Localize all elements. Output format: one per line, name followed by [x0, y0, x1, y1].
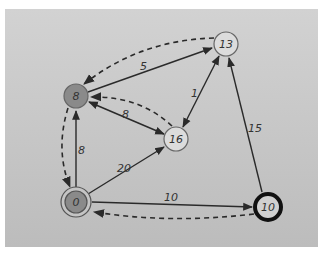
node-0[interactable]: 0 — [61, 187, 91, 217]
edge-label-8-13: 5 — [140, 60, 147, 73]
edge-label-0-10: 10 — [164, 191, 178, 204]
node-16[interactable]: 16 — [164, 127, 188, 151]
edge-label-10-13: 15 — [248, 122, 262, 135]
edge-label-8-16: 8 — [122, 108, 129, 121]
pred-edge-8-0 — [62, 108, 70, 187]
node-label-13: 13 — [219, 38, 233, 51]
pred-edge-16-8 — [91, 97, 172, 126]
graph-canvas: 8 20 10 5 8 1 15 0 8 13 16 10 — [0, 0, 325, 260]
edge-13-16 — [183, 56, 219, 127]
node-label-10: 10 — [261, 201, 275, 214]
edge-8-13 — [88, 48, 212, 92]
pred-edge-13-8 — [84, 38, 214, 84]
node-label-0: 0 — [73, 196, 80, 209]
node-10[interactable]: 10 — [255, 194, 281, 220]
node-13[interactable]: 13 — [214, 32, 238, 56]
edge-label-0-16: 20 — [117, 162, 131, 175]
node-8[interactable]: 8 — [64, 84, 88, 108]
node-label-8: 8 — [73, 90, 80, 103]
node-label-16: 16 — [169, 133, 183, 146]
edge-label-0-8: 8 — [78, 144, 85, 157]
pred-edge-10-0 — [94, 212, 254, 219]
edge-label-13-16: 1 — [191, 87, 198, 100]
